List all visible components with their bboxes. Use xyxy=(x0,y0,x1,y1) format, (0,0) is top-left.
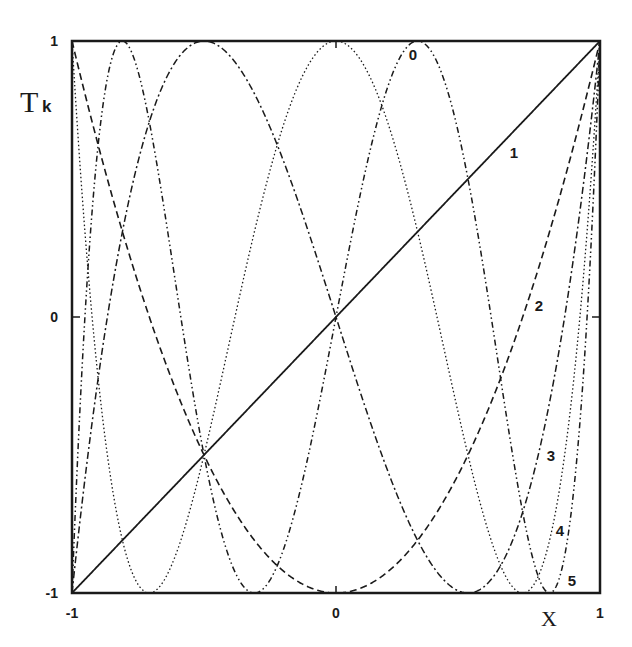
curve-label-t2: 2 xyxy=(535,297,543,314)
x-tick-label: -1 xyxy=(66,605,79,621)
x-tick-label: 0 xyxy=(332,605,340,621)
curve-label-t4: 4 xyxy=(556,522,565,539)
y-axis-label: T xyxy=(20,85,38,118)
chebyshev-chart: -101-101 012345 T k X xyxy=(0,0,632,647)
curve-label-t5: 5 xyxy=(568,572,576,589)
curve-label-t0: 0 xyxy=(409,46,417,63)
y-tick-label: 1 xyxy=(50,33,58,49)
y-axis-label-subscript: k xyxy=(42,97,52,116)
x-tick-label: 1 xyxy=(596,605,604,621)
curve-label-t3: 3 xyxy=(547,447,555,464)
y-tick-label: 0 xyxy=(50,309,58,325)
y-tick-label: -1 xyxy=(46,585,59,601)
curves-layer xyxy=(72,41,600,593)
x-axis-label: X xyxy=(541,606,557,631)
curve-labels: 012345 xyxy=(409,46,576,589)
curve-label-t1: 1 xyxy=(510,144,518,161)
